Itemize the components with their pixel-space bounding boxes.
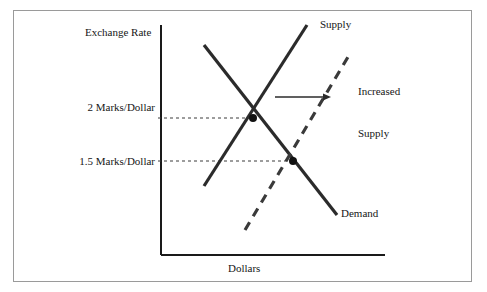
- increased-supply-curve-label: Increased Supply: [358, 56, 400, 168]
- demand-curve-label: Demand: [341, 207, 378, 220]
- initial-equilibrium-point: [249, 114, 257, 122]
- increased-supply-label-line1: Increased: [358, 84, 400, 98]
- y-axis-label: Exchange Rate: [85, 26, 151, 39]
- increased-supply-curve: [245, 57, 348, 230]
- demand-curve: [204, 45, 337, 215]
- supply-curve-label: Supply: [320, 18, 351, 31]
- new-equilibrium-point: [289, 157, 297, 165]
- x-axis-label: Dollars: [228, 262, 260, 275]
- plot-canvas: [0, 0, 487, 292]
- increased-supply-label-line2: Supply: [358, 126, 400, 140]
- y-tick-label-low: 1.5 Marks/Dollar: [61, 155, 155, 168]
- supply-demand-figure: Exchange Rate Dollars 2 Marks/Dollar 1.5…: [0, 0, 487, 292]
- y-tick-label-high: 2 Marks/Dollar: [73, 101, 155, 114]
